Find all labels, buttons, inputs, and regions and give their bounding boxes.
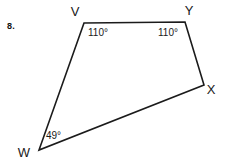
vertex-label-y: Y	[185, 3, 194, 18]
quadrilateral-outline	[39, 22, 204, 150]
vertex-label-v: V	[71, 4, 80, 19]
angle-label-at-v: 110°	[88, 27, 108, 38]
vertex-label-w: W	[18, 145, 31, 160]
angle-label-at-w: 49°	[46, 130, 61, 141]
quadrilateral-diagram: V Y X W 110° 110° 49°	[0, 0, 230, 161]
geometry-figure-container: 8. V Y X W 110° 110° 49°	[0, 0, 230, 161]
angle-label-at-y: 110°	[158, 27, 178, 38]
vertex-label-x: X	[207, 82, 216, 97]
